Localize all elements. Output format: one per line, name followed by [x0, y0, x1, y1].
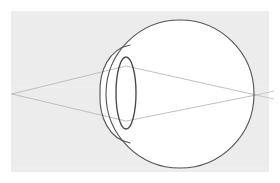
- point-source-apex: [11, 93, 12, 94]
- eye-diagram-canvas: Optical diagram of the human eye Schemat…: [0, 0, 280, 183]
- eyeball-interior: [106, 20, 254, 168]
- retinal-focus-point: [255, 94, 256, 95]
- eye-optics-figure: Optical diagram of the human eye Schemat…: [0, 0, 280, 183]
